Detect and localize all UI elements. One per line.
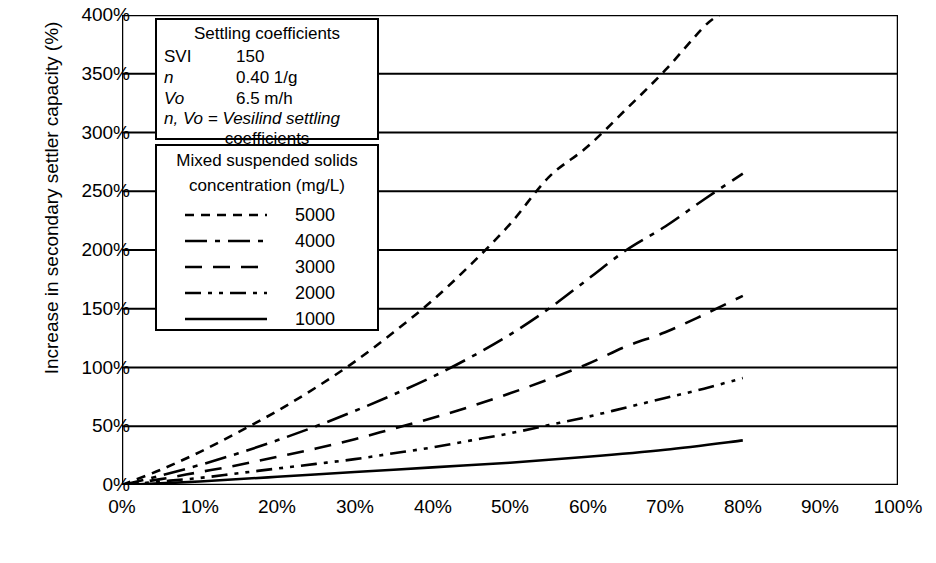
legend-item-4000[interactable]: 4000: [157, 228, 377, 254]
legend-label-2000: 2000: [295, 283, 335, 304]
y-tick-label-50: 50%: [20, 416, 130, 435]
x-tick-label-70: 70%: [620, 496, 710, 518]
y-tick-label-100: 100%: [20, 358, 130, 377]
legend-item-1000[interactable]: 1000: [157, 306, 377, 332]
settling-coefficients-title: Settling coefficients: [157, 20, 377, 43]
series-line-1000: [122, 440, 743, 485]
y-tick-label-250: 250%: [20, 181, 130, 200]
settling-coefficients-note-line1: n, Vo = Vesilind settling: [157, 109, 377, 129]
coefficient-key-n: n: [164, 67, 236, 88]
x-tick-label-100: 100%: [853, 496, 936, 518]
coefficient-row-n: n 0.40 1/g: [164, 67, 377, 88]
coefficient-row-vo: Vo 6.5 m/h: [164, 88, 377, 109]
coefficient-value-vo: 6.5 m/h: [236, 88, 377, 109]
x-tick-label-20: 20%: [232, 496, 322, 518]
y-tick-label-150: 150%: [20, 299, 130, 318]
legend-item-2000[interactable]: 2000: [157, 280, 377, 306]
legend-item-5000[interactable]: 5000: [157, 202, 377, 228]
legend-box: Mixed suspended solids concentration (mg…: [155, 144, 379, 331]
legend-swatch-2000: [183, 287, 283, 299]
legend-item-3000[interactable]: 3000: [157, 254, 377, 280]
coefficient-row-svi: SVI 150: [164, 46, 377, 67]
legend-swatch-4000: [183, 235, 283, 247]
coefficient-key-svi: SVI: [164, 46, 236, 67]
legend-title-line2: concentration (mg/L): [157, 171, 377, 196]
y-tick-label-350: 350%: [20, 64, 130, 83]
legend-swatch-5000: [183, 209, 283, 221]
legend-swatch-3000: [183, 261, 283, 273]
y-tick-label-300: 300%: [20, 123, 130, 142]
coefficient-value-n: 0.40 1/g: [236, 67, 377, 88]
chart-figure: Increase in secondary settler capacity (…: [0, 0, 936, 563]
legend-title-line1: Mixed suspended solids: [157, 146, 377, 171]
settling-coefficients-rows: SVI 150 n 0.40 1/g Vo 6.5 m/h: [157, 46, 377, 109]
legend-label-4000: 4000: [295, 231, 335, 252]
y-tick-label-200: 200%: [20, 240, 130, 259]
coefficient-value-svi: 150: [236, 46, 377, 67]
legend-swatch-1000: [183, 313, 283, 325]
x-tick-label-30: 30%: [310, 496, 400, 518]
legend-label-1000: 1000: [295, 309, 335, 330]
legend-label-5000: 5000: [295, 205, 335, 226]
legend-entries: 50004000300020001000: [157, 202, 377, 332]
x-tick-label-50: 50%: [465, 496, 555, 518]
x-tick-label-90: 90%: [775, 496, 865, 518]
coefficient-key-vo: Vo: [164, 88, 236, 109]
y-tick-label-0: 0%: [20, 475, 130, 494]
settling-coefficients-box: Settling coefficients SVI 150 n 0.40 1/g…: [155, 18, 379, 140]
x-tick-label-0: 0%: [77, 496, 167, 518]
legend-label-3000: 3000: [295, 257, 335, 278]
y-tick-label-400: 400%: [20, 5, 130, 24]
